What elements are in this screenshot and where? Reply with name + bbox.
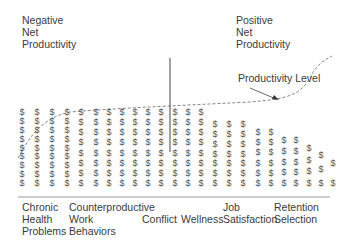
dollar-symbol: $ (18, 152, 26, 160)
dollar-symbol: $ (105, 159, 113, 167)
dollar-symbol: $ (280, 168, 288, 176)
dollar-symbol: $ (18, 179, 26, 187)
dollar-symbol: $ (18, 170, 26, 178)
dollar-symbol: $ (211, 169, 219, 177)
dollar-symbol: $ (63, 144, 71, 152)
dollar-symbol: $ (144, 128, 152, 136)
dollar-symbol: $ (197, 149, 205, 157)
dollar-symbol: $ (92, 108, 100, 116)
dollar-symbol: $ (48, 161, 56, 169)
dollar-symbol: $ (225, 150, 233, 158)
dollar-symbol: $ (184, 179, 192, 187)
dollar-symbol: $ (131, 128, 139, 136)
dollar-symbol: $ (118, 128, 126, 136)
dollar-symbol: $ (18, 161, 26, 169)
dollar-symbol: $ (239, 140, 247, 148)
dollar-symbol: $ (77, 179, 85, 187)
category-label: Chronic Health Problems (22, 201, 66, 237)
dollar-symbol: $ (131, 118, 139, 126)
dollar-symbol: $ (157, 179, 165, 187)
dollar-symbol: $ (305, 156, 313, 164)
dollar-symbol: $ (211, 130, 219, 138)
dollar-symbol: $ (18, 144, 26, 152)
dollar-symbol: $ (48, 117, 56, 125)
dollar-symbol: $ (171, 149, 179, 157)
dollar-symbol: $ (77, 118, 85, 126)
dollar-symbol: $ (63, 170, 71, 178)
dollar-symbol: $ (225, 140, 233, 148)
dollar-symbol: $ (63, 117, 71, 125)
dollar-symbol: $ (105, 138, 113, 146)
dollar-symbol: $ (105, 128, 113, 136)
dollar-symbol: $ (184, 149, 192, 157)
dollar-symbol: $ (33, 161, 41, 169)
dollar-symbol: $ (197, 179, 205, 187)
dollar-symbol: $ (171, 108, 179, 116)
dollar-symbol: $ (292, 136, 300, 144)
dollar-symbol: $ (280, 147, 288, 155)
dollar-symbol: $ (184, 128, 192, 136)
dollar-symbol: $ (63, 135, 71, 143)
dollar-symbol: $ (118, 108, 126, 116)
productivity-arrow (250, 88, 276, 99)
dollar-symbol: $ (239, 179, 247, 187)
dollar-symbol: $ (184, 108, 192, 116)
dollar-symbol: $ (144, 179, 152, 187)
dollar-symbol: $ (48, 126, 56, 134)
dollar-symbol: $ (184, 138, 192, 146)
dollar-symbol: $ (33, 144, 41, 152)
dollar-symbol: $ (157, 118, 165, 126)
dollar-symbol: $ (48, 108, 56, 116)
dollar-symbol: $ (171, 118, 179, 126)
dollar-symbol: $ (118, 179, 126, 187)
dollar-symbol: $ (292, 158, 300, 166)
dollar-symbol: $ (77, 138, 85, 146)
dollar-symbol: $ (63, 126, 71, 134)
dollar-symbol: $ (33, 117, 41, 125)
dollar-symbol: $ (118, 138, 126, 146)
category-label: Retention Selection (274, 201, 319, 225)
dollar-symbol: $ (105, 169, 113, 177)
dollar-symbol: $ (197, 108, 205, 116)
dollar-symbol: $ (254, 148, 262, 156)
dollar-symbol: $ (157, 169, 165, 177)
dollar-symbol: $ (239, 130, 247, 138)
dollar-symbol: $ (92, 118, 100, 126)
dollar-symbol: $ (239, 120, 247, 128)
dollar-symbol: $ (157, 128, 165, 136)
dollar-symbol: $ (254, 128, 262, 136)
dollar-symbol: $ (157, 159, 165, 167)
category-label: Conflict (142, 213, 177, 225)
dollar-symbol: $ (48, 152, 56, 160)
dollar-symbol: $ (18, 135, 26, 143)
dollar-symbol: $ (305, 167, 313, 175)
dollar-symbol: $ (292, 147, 300, 155)
dollar-symbol: $ (171, 169, 179, 177)
dollar-symbol: $ (131, 108, 139, 116)
dollar-symbol: $ (77, 159, 85, 167)
dollar-symbol: $ (144, 118, 152, 126)
dollar-symbol: $ (280, 158, 288, 166)
dollar-symbol: $ (92, 128, 100, 136)
dollar-symbol: $ (33, 170, 41, 178)
dollar-symbol: $ (144, 159, 152, 167)
dollar-symbol: $ (33, 152, 41, 160)
dollar-symbol: $ (197, 138, 205, 146)
dollar-symbol: $ (33, 179, 41, 187)
dollar-symbol: $ (267, 128, 275, 136)
dollar-symbol: $ (211, 150, 219, 158)
dollar-symbol: $ (225, 120, 233, 128)
dollar-symbol: $ (305, 144, 313, 152)
dollar-symbol: $ (197, 169, 205, 177)
dollar-symbol: $ (118, 149, 126, 157)
dollar-symbol: $ (254, 169, 262, 177)
dollar-symbol: $ (211, 179, 219, 187)
dollar-symbol: $ (77, 128, 85, 136)
dollar-symbol: $ (131, 169, 139, 177)
dollar-symbol: $ (267, 169, 275, 177)
dollar-symbol: $ (118, 118, 126, 126)
dollar-symbol: $ (329, 179, 337, 187)
dollar-symbol: $ (329, 159, 337, 167)
dollar-symbol: $ (171, 179, 179, 187)
dollar-symbol: $ (48, 170, 56, 178)
